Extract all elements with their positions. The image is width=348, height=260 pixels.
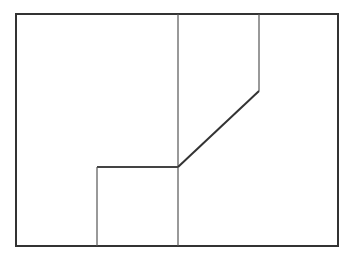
frame-border bbox=[16, 14, 338, 246]
diagram-canvas bbox=[0, 0, 348, 260]
diagonal-line bbox=[178, 91, 259, 167]
line-segments bbox=[97, 14, 259, 246]
